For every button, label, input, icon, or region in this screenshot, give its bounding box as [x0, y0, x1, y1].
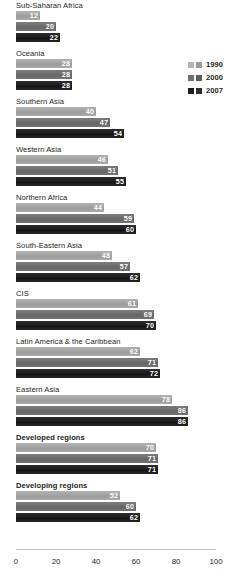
bar-1990: 70: [16, 443, 156, 452]
bar-row: 12: [0, 11, 246, 20]
bar-group-label: South-Eastern Asia: [0, 240, 246, 251]
legend-label: 1990: [206, 61, 223, 69]
bar-value-label: 78: [162, 395, 170, 404]
bar-value-label: 86: [178, 406, 186, 415]
bar-2007: 70: [16, 321, 156, 330]
bar-value-label: 71: [148, 454, 156, 463]
bar-group: Southern Asia404754: [0, 96, 246, 138]
bar-value-label: 48: [102, 251, 110, 260]
bar-2000: 71: [16, 358, 158, 367]
bar-2000: 71: [16, 454, 158, 463]
bar-value-label: 62: [130, 273, 138, 282]
bar-2000: 69: [16, 310, 154, 319]
bar-group-label: CIS: [0, 288, 246, 299]
bar-row: 48: [0, 251, 246, 260]
bar-1990: 44: [16, 203, 104, 212]
bar-value-label: 71: [148, 465, 156, 474]
bar-1990: 12: [16, 11, 40, 20]
bar-chart: Sub-Saharan Africa122022Oceania282828Sou…: [0, 0, 246, 578]
bar-value-label: 51: [108, 166, 116, 175]
bar-value-label: 40: [86, 107, 94, 116]
legend-item[interactable]: 2000: [188, 72, 246, 83]
bar-row: 69: [0, 310, 246, 319]
legend-swatch-icon: [188, 75, 194, 81]
bar-value-label: 62: [130, 513, 138, 522]
x-axis-tick-label: 100: [209, 557, 222, 566]
bar-group-label: Developed regions: [0, 432, 246, 443]
bar-2007: 60: [16, 225, 136, 234]
bar-row: 71: [0, 465, 246, 474]
x-axis-line: [16, 549, 216, 550]
bar-1990: 40: [16, 107, 96, 116]
bar-row: 71: [0, 358, 246, 367]
bar-row: 70: [0, 321, 246, 330]
bar-group-label: Latin America & the Caribbean: [0, 336, 246, 347]
bar-2000: 51: [16, 166, 118, 175]
bar-value-label: 55: [116, 177, 124, 186]
bar-value-label: 12: [30, 11, 38, 20]
bar-1990: 62: [16, 347, 140, 356]
bar-value-label: 57: [120, 262, 128, 271]
bar-2000: 47: [16, 118, 110, 127]
bar-2007: 62: [16, 273, 140, 282]
x-axis-tick-label: 40: [92, 557, 101, 566]
bar-2000: 20: [16, 22, 56, 31]
bar-group-label: Eastern Asia: [0, 384, 246, 395]
bar-group: CIS616970: [0, 288, 246, 330]
bar-group: Developed regions707171: [0, 432, 246, 474]
bar-1990: 52: [16, 491, 120, 500]
bar-2007: 22: [16, 33, 60, 42]
bar-value-label: 72: [150, 369, 158, 378]
bar-row: 47: [0, 118, 246, 127]
bar-value-label: 44: [94, 203, 102, 212]
bar-row: 86: [0, 417, 246, 426]
legend-label: 2000: [206, 74, 223, 82]
bar-value-label: 54: [114, 129, 122, 138]
bar-value-label: 70: [146, 321, 154, 330]
bar-value-label: 28: [62, 70, 70, 79]
chart-legend: 199020002007: [188, 59, 246, 98]
bar-value-label: 47: [100, 118, 108, 127]
bar-row: 52: [0, 491, 246, 500]
bar-row: 86: [0, 406, 246, 415]
bar-group-label: Northern Africa: [0, 192, 246, 203]
bar-row: 44: [0, 203, 246, 212]
legend-swatch-icon: [188, 62, 194, 68]
bar-group: Northern Africa445960: [0, 192, 246, 234]
legend-item[interactable]: 2007: [188, 85, 246, 96]
bar-value-label: 28: [62, 59, 70, 68]
bar-group: Eastern Asia788686: [0, 384, 246, 426]
bar-2007: 62: [16, 513, 140, 522]
bar-group-label: Western Asia: [0, 144, 246, 155]
legend-swatch-icon: [196, 75, 202, 81]
bar-1990: 48: [16, 251, 112, 260]
bar-row: 62: [0, 273, 246, 282]
bar-row: 51: [0, 166, 246, 175]
bar-row: 57: [0, 262, 246, 271]
bar-group: Developing regions526062: [0, 480, 246, 522]
bar-value-label: 70: [146, 443, 154, 452]
bar-row: 22: [0, 33, 246, 42]
bar-value-label: 61: [128, 299, 136, 308]
bar-group-label: Sub-Saharan Africa: [0, 0, 246, 11]
bar-row: 60: [0, 225, 246, 234]
bar-2007: 28: [16, 81, 72, 90]
legend-swatch-icon: [196, 88, 202, 94]
bar-value-label: 60: [126, 225, 134, 234]
bar-row: 60: [0, 502, 246, 511]
bar-row: 62: [0, 347, 246, 356]
bar-group-label: Oceania: [0, 48, 246, 59]
bar-2007: 55: [16, 177, 126, 186]
legend-swatch-icon: [188, 88, 194, 94]
legend-swatch-icon: [196, 62, 202, 68]
bar-2007: 71: [16, 465, 158, 474]
bar-1990: 78: [16, 395, 172, 404]
bar-row: 59: [0, 214, 246, 223]
bar-2000: 59: [16, 214, 134, 223]
legend-item[interactable]: 1990: [188, 59, 246, 70]
bar-group: Western Asia465155: [0, 144, 246, 186]
bar-2000: 86: [16, 406, 188, 415]
bar-2000: 28: [16, 70, 72, 79]
bar-row: 55: [0, 177, 246, 186]
bar-2000: 60: [16, 502, 136, 511]
